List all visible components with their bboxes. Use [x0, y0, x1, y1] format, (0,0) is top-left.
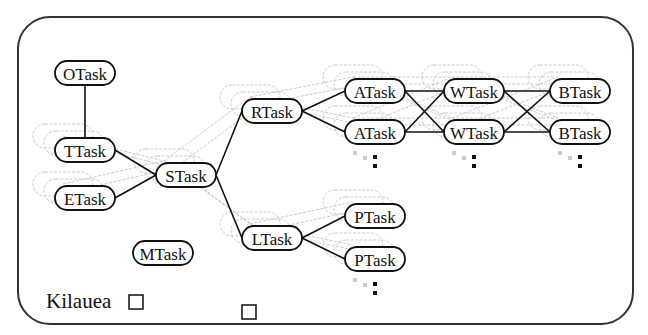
node-rtask[interactable]: RTask: [242, 99, 302, 123]
node-stask[interactable]: STask: [156, 163, 216, 187]
node-label: WTask: [450, 83, 498, 102]
node-btask2[interactable]: BTask: [550, 120, 610, 144]
node-label: ATask: [354, 124, 397, 143]
node-label: LTask: [252, 230, 293, 249]
node-btask1[interactable]: BTask: [550, 79, 610, 103]
node-label: ETask: [64, 190, 107, 209]
node-wtask1[interactable]: WTask: [444, 79, 504, 103]
node-label: BTask: [558, 124, 602, 143]
ghost-replicas: [33, 65, 599, 264]
edge-ltask-ptask1: [302, 216, 345, 238]
node-wtask2[interactable]: WTask: [444, 120, 504, 144]
host-label: Kilauea: [46, 289, 112, 313]
host-checkbox-2[interactable]: [242, 305, 256, 319]
continuation-dot: [472, 155, 476, 159]
host-checkbox-1[interactable]: [129, 295, 143, 309]
continuation-dot: [373, 282, 377, 286]
node-label: WTask: [450, 124, 498, 143]
node-ptask1[interactable]: PTask: [345, 204, 405, 228]
node-ltask[interactable]: LTask: [242, 226, 302, 250]
node-label: ATask: [354, 83, 397, 102]
node-label: MTask: [140, 245, 187, 264]
continuation-dot: [373, 155, 377, 159]
continuation-dot: [578, 164, 582, 168]
node-label: TTask: [64, 142, 107, 161]
node-atask2[interactable]: ATask: [345, 120, 405, 144]
nodes: OTaskTTaskETaskSTaskMTaskRTaskLTaskATask…: [55, 61, 610, 271]
edge-etask-stask: [115, 175, 156, 198]
node-label: PTask: [354, 208, 396, 227]
task-graph-diagram: OTaskTTaskETaskSTaskMTaskRTaskLTaskATask…: [0, 0, 648, 335]
edge-stask-rtask: [216, 111, 242, 175]
node-ttask[interactable]: TTask: [55, 138, 115, 162]
node-label: STask: [165, 167, 207, 186]
node-mtask[interactable]: MTask: [133, 241, 193, 265]
continuation-dot: [373, 164, 377, 168]
edge-stask-ltask: [216, 175, 242, 238]
continuation-dot: [373, 291, 377, 295]
node-label: OTask: [63, 65, 108, 84]
node-otask[interactable]: OTask: [55, 61, 115, 85]
node-ptask2[interactable]: PTask: [345, 247, 405, 271]
node-label: BTask: [558, 83, 602, 102]
continuation-dot: [472, 164, 476, 168]
continuation-dot: [578, 155, 582, 159]
edge-rtask-atask1: [302, 91, 345, 111]
node-atask1[interactable]: ATask: [345, 79, 405, 103]
node-label: PTask: [354, 251, 396, 270]
node-label: RTask: [251, 103, 294, 122]
node-etask[interactable]: ETask: [55, 186, 115, 210]
